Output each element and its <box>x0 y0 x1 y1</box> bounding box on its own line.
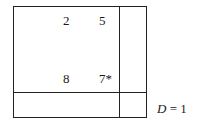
d-value: 1 <box>180 101 187 116</box>
cell-r1-c1-starred: 7* <box>99 72 112 85</box>
row-divider <box>13 92 147 93</box>
column-divider <box>119 6 120 118</box>
cell-r0-c0: 2 <box>63 14 70 27</box>
d-variable: D <box>157 101 166 116</box>
d-value-label: D = 1 <box>157 102 187 115</box>
equals-sign: = <box>166 101 180 116</box>
cell-r0-c1: 5 <box>99 14 106 27</box>
cell-r1-c0: 8 <box>63 72 70 85</box>
matrix-outer-border <box>13 6 147 118</box>
